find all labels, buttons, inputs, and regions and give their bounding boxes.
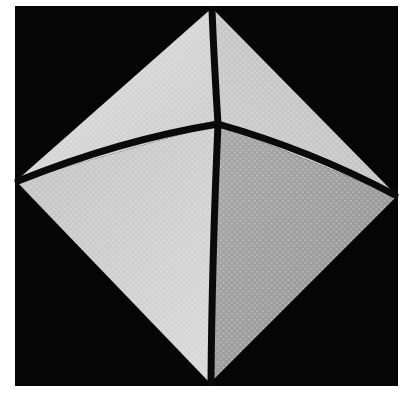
pyramid-diagram: [0, 0, 409, 406]
figure-caption: [0, 394, 409, 406]
